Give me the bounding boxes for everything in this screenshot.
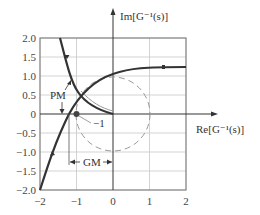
minus-one-point [74,111,80,117]
curve-b-marker [162,65,165,69]
svg-text:−0.5: −0.5 [16,127,36,139]
x-axis-label: Re[G⁻¹(s)] [196,123,244,136]
gm-arrow-right-icon [107,160,112,165]
x-tick-labels: −2 −1 0 1 2 [34,195,189,207]
pm-arrow-top-icon [67,80,71,85]
svg-text:−1.0: −1.0 [16,146,36,158]
svg-text:−2: −2 [34,195,46,207]
x-axis-arrow-icon [211,112,218,117]
inverse-nyquist-chart: −1 PM GM 2.0 1.5 1.0 0.5 0 −0.5 −1.0 −1.… [0,0,260,215]
minus-one-label: −1 [93,117,105,129]
minus-one-leader [79,116,91,123]
pm-label: PM [50,89,66,101]
axes [40,12,214,190]
svg-text:1.5: 1.5 [22,51,36,63]
svg-text:1.0: 1.0 [22,70,36,82]
pm-arrow-bottom-icon [60,109,65,114]
svg-text:0.5: 0.5 [22,89,36,101]
gm-arrow-left-icon [70,160,75,165]
svg-text:0: 0 [110,195,116,207]
y-axis-arrow-icon [111,8,116,15]
gm-label: GM [83,156,101,168]
svg-text:−1: −1 [71,195,83,207]
y-tick-labels: 2.0 1.5 1.0 0.5 0 −0.5 −1.0 −1.5 −2.0 [16,32,36,196]
svg-text:0: 0 [31,108,37,120]
y-axis-label: Im[G⁻¹(s)] [120,10,168,23]
svg-text:2: 2 [183,195,189,207]
svg-text:1: 1 [147,195,153,207]
svg-text:−1.5: −1.5 [16,165,36,177]
svg-text:2.0: 2.0 [22,32,36,44]
